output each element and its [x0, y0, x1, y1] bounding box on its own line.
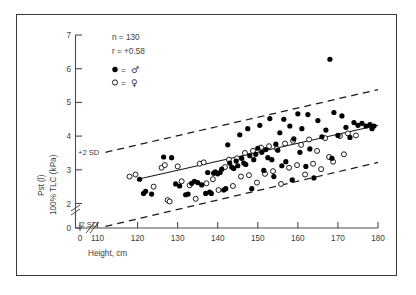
r-annotation: r = +0.58	[112, 47, 145, 56]
data-point-male	[267, 116, 272, 121]
data-point-female	[353, 133, 358, 138]
x-tick-label: 120	[131, 234, 145, 243]
data-point-male	[319, 134, 324, 139]
data-point-female	[279, 181, 284, 186]
data-point-female	[303, 172, 308, 177]
data-point-male	[261, 168, 266, 173]
data-point-female	[311, 161, 316, 166]
x-tick-label: 160	[291, 234, 305, 243]
data-point-male	[275, 148, 280, 153]
data-point-male	[263, 147, 268, 152]
y-tick-label: 4	[66, 132, 71, 141]
data-point-male	[315, 118, 320, 123]
data-point-female	[271, 169, 276, 174]
data-point-male	[331, 110, 336, 115]
data-point-male	[283, 159, 288, 164]
data-point-female	[319, 167, 324, 172]
data-point-male	[225, 142, 230, 147]
data-point-female	[307, 137, 312, 142]
data-point-female	[283, 141, 288, 146]
data-point-male	[329, 156, 334, 161]
y-tick-label: 2	[66, 200, 71, 209]
n-annotation: n = 130	[112, 33, 140, 42]
data-point-male	[323, 127, 328, 132]
data-point-male	[149, 191, 154, 196]
data-point-female	[341, 152, 346, 157]
data-point-male	[339, 113, 344, 118]
data-point-male	[247, 153, 252, 158]
data-point-male	[137, 177, 142, 182]
x-origin-label: 0	[78, 234, 83, 243]
data-point-female	[242, 150, 247, 155]
y-tick-label: 7	[66, 31, 71, 40]
y-tick-label: 0	[66, 224, 71, 233]
data-point-female	[295, 163, 300, 168]
x-axis-title: Height, cm	[88, 249, 127, 258]
minus-2sd-label: -2 SD	[78, 220, 98, 229]
figure-container: 1101201301401501601701800 0234567 +2 SD …	[0, 0, 416, 295]
x-tick-label: 140	[211, 234, 225, 243]
data-point-female	[254, 180, 259, 185]
data-point-female	[299, 142, 304, 147]
data-point-male	[243, 162, 248, 167]
data-point-male	[297, 150, 302, 155]
data-point-female	[216, 188, 221, 193]
data-point-male	[255, 146, 260, 151]
data-point-female	[246, 173, 251, 178]
data-point-male	[177, 183, 182, 188]
data-point-male	[143, 189, 148, 194]
data-point-male	[199, 182, 204, 187]
data-point-female	[204, 181, 209, 186]
data-point-male	[269, 157, 274, 162]
data-point-female	[201, 160, 206, 165]
data-point-female	[167, 199, 172, 204]
data-point-male	[295, 111, 300, 116]
data-point-male	[219, 167, 224, 172]
data-point-male	[237, 132, 242, 137]
data-point-male	[311, 175, 316, 180]
male-points-group	[137, 57, 377, 198]
data-point-male	[327, 57, 332, 62]
data-point-male	[307, 146, 312, 151]
y-tick-label: 6	[66, 65, 71, 74]
data-point-male	[281, 117, 286, 122]
legend-female-marker	[112, 80, 117, 85]
data-point-male	[253, 152, 258, 157]
x-tick-label: 170	[331, 234, 345, 243]
data-point-female	[179, 179, 184, 184]
data-point-male	[279, 163, 284, 168]
data-point-male	[257, 123, 262, 128]
data-point-male	[161, 154, 166, 159]
data-point-female	[151, 184, 156, 189]
data-point-female	[238, 174, 243, 179]
data-point-female	[230, 183, 235, 188]
scatter-plot: 1101201301401501601701800 0234567 +2 SD …	[0, 0, 416, 295]
data-point-male	[223, 186, 228, 191]
data-point-male	[234, 158, 239, 163]
data-point-male	[343, 125, 348, 130]
x-tick-label: 130	[171, 234, 185, 243]
data-point-male	[251, 157, 256, 162]
y-tick-label: 5	[66, 98, 71, 107]
data-point-male	[291, 136, 296, 141]
sd-band-plus-2sd	[106, 90, 378, 153]
sd-band-minus-2sd	[106, 162, 378, 226]
data-point-male	[169, 155, 174, 160]
female-points-group	[127, 131, 358, 204]
data-point-female	[162, 163, 167, 168]
data-point-male	[205, 170, 210, 175]
x-tick-label: 180	[371, 234, 385, 243]
data-point-male	[305, 112, 310, 117]
female-symbol-icon: ♀	[131, 78, 138, 88]
data-point-female	[210, 177, 215, 182]
data-point-male	[235, 163, 240, 168]
x-tick-label: 150	[251, 234, 265, 243]
legend-male-marker	[112, 67, 117, 72]
male-symbol-icon: ♂	[131, 65, 139, 75]
data-point-male	[371, 123, 376, 128]
data-point-male	[273, 142, 278, 147]
data-point-male	[335, 133, 340, 138]
legend: = ♂ = ♀	[112, 65, 139, 88]
plus-2sd-label: +2 SD	[78, 148, 100, 157]
data-point-female	[127, 174, 132, 179]
